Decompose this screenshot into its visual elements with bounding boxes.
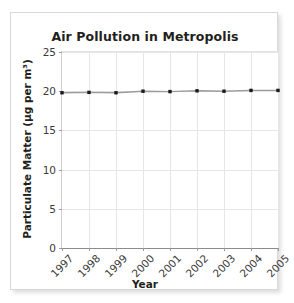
data-point-marker xyxy=(222,90,225,93)
x-tick-label: 2003 xyxy=(210,252,237,279)
y-axis-title-label: Particulate Matter (µg per m³) xyxy=(21,59,33,239)
x-tick-mark xyxy=(143,248,144,251)
chart-card: Air Pollution in Metropolis Particulate … xyxy=(10,12,278,290)
x-tick-mark xyxy=(278,248,279,251)
x-tick-label: 1997 xyxy=(48,252,75,279)
y-tick-label: 15 xyxy=(43,124,56,136)
x-tick-mark xyxy=(170,248,171,251)
x-tick-label: 2001 xyxy=(156,252,183,279)
data-point-marker xyxy=(168,90,171,93)
y-tick-label: 5 xyxy=(49,203,56,215)
x-tick-label: 1998 xyxy=(75,252,102,279)
x-tick-label: 2000 xyxy=(129,252,156,279)
y-tick-label: 10 xyxy=(43,164,56,176)
chart-figure: Air Pollution in Metropolis Particulate … xyxy=(11,13,277,289)
plot-area: 0510152025 19971998199920002001200220032… xyxy=(61,51,279,249)
y-tick-label: 0 xyxy=(49,242,56,254)
y-tick-label: 25 xyxy=(43,46,56,58)
y-tick-label: 20 xyxy=(43,85,56,97)
data-point-marker xyxy=(114,91,117,94)
data-point-marker xyxy=(141,90,144,93)
x-tick-label: 2005 xyxy=(264,252,291,279)
x-axis-title: Year xyxy=(11,278,279,290)
data-point-marker xyxy=(195,89,198,92)
x-tick-mark xyxy=(224,248,225,251)
x-tick-mark xyxy=(89,248,90,251)
x-tick-mark xyxy=(251,248,252,251)
x-tick-label: 1999 xyxy=(102,252,129,279)
data-point-marker xyxy=(60,91,63,94)
x-tick-mark xyxy=(116,248,117,251)
data-point-marker xyxy=(276,89,279,92)
x-tick-mark xyxy=(197,248,198,251)
y-axis-title: Particulate Matter (µg per m³) xyxy=(19,51,35,247)
x-tick-mark xyxy=(62,248,63,251)
chart-title: Air Pollution in Metropolis xyxy=(11,29,279,44)
gridline-vertical xyxy=(278,52,279,248)
data-point-marker xyxy=(249,89,252,92)
x-tick-label: 2004 xyxy=(237,252,264,279)
x-tick-label: 2002 xyxy=(183,252,210,279)
data-point-marker xyxy=(87,91,90,94)
series-layer xyxy=(62,52,278,248)
